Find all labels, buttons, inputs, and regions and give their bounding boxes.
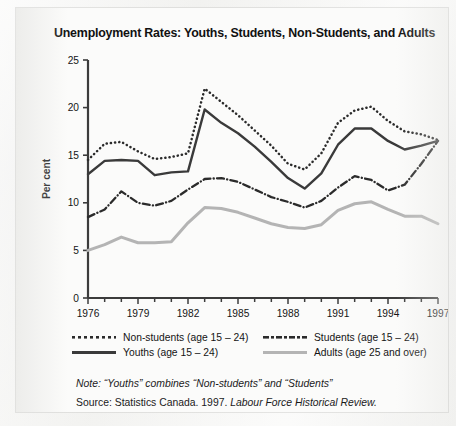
chart-legend: Non-students (age 15 – 24) Students (age… (72, 332, 448, 362)
y-tick-label-25: 25 (68, 55, 80, 66)
legend-swatch-youths (72, 348, 116, 358)
note-text: “Youths” combines “Non-students” and “St… (101, 378, 333, 389)
series-line-non-students (88, 89, 438, 170)
x-tick-label-1994: 1994 (377, 308, 400, 319)
figure-sheet: Unemployment Rates: Youths, Students, No… (16, 8, 448, 412)
legend-item-non-students: Non-students (age 15 – 24) (72, 332, 257, 343)
x-tick-label-1976: 1976 (77, 308, 100, 319)
source-text: Statistics Canada. 1997. (112, 397, 230, 408)
legend-label-adults: Adults (age 25 and over) (314, 347, 427, 358)
y-tick-label-5: 5 (73, 245, 79, 256)
x-tick-label-1988: 1988 (277, 308, 300, 319)
legend-row-2: Youths (age 15 – 24) Adults (age 25 and … (72, 347, 448, 358)
x-tick-label-1982: 1982 (177, 308, 200, 319)
y-tick-label-15: 15 (68, 150, 80, 161)
x-tick-label-1997: 1997 (427, 308, 448, 319)
legend-label-students: Students (age 15 – 24) (314, 332, 419, 343)
line-chart: 0510152025197619791982198519881991199419… (34, 46, 448, 328)
note-line: Note: “Youths” combines “Non-students” a… (76, 374, 456, 393)
legend-label-youths: Youths (age 15 – 24) (123, 347, 218, 358)
x-tick-label-1991: 1991 (327, 308, 350, 319)
x-tick-label-1979: 1979 (127, 308, 150, 319)
series-line-adults (88, 202, 438, 251)
legend-item-students: Students (age 15 – 24) (257, 332, 448, 343)
note-lead: Note: (76, 378, 101, 389)
chart-footnotes: Note: “Youths” combines “Non-students” a… (76, 374, 456, 412)
legend-item-youths: Youths (age 15 – 24) (72, 347, 257, 358)
legend-row-1: Non-students (age 15 – 24) Students (age… (72, 332, 448, 343)
y-tick-label-0: 0 (73, 293, 79, 304)
y-axis-title: Per cent (41, 158, 52, 199)
chart-plot-area: 0510152025197619791982198519881991199419… (34, 46, 448, 328)
source-line: Source: Statistics Canada. 1997. Labour … (76, 393, 456, 412)
x-tick-label-1985: 1985 (227, 308, 250, 319)
legend-swatch-non-students (72, 333, 116, 343)
series-line-youths (88, 110, 438, 189)
legend-swatch-adults (263, 348, 307, 358)
source-publication: Labour Force Historical Review. (230, 397, 377, 408)
y-tick-label-10: 10 (68, 197, 80, 208)
legend-item-adults: Adults (age 25 and over) (257, 347, 448, 358)
legend-label-non-students: Non-students (age 15 – 24) (123, 332, 248, 343)
source-lead: Source: (76, 397, 112, 408)
y-tick-label-20: 20 (68, 102, 80, 113)
legend-swatch-students (263, 333, 307, 343)
chart-title: Unemployment Rates: Youths, Students, No… (54, 26, 454, 40)
